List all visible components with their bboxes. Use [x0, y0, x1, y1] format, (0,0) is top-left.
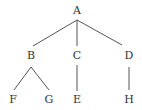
edge-a-d	[77, 20, 122, 45]
tree-nodes: A B C D F G E H	[9, 4, 134, 106]
edge-a-b	[33, 20, 77, 46]
node-h: H	[124, 93, 134, 106]
node-a: A	[72, 4, 82, 17]
node-b: B	[27, 49, 35, 62]
node-f: F	[9, 93, 17, 106]
node-d: D	[125, 49, 134, 62]
node-c: C	[73, 49, 81, 62]
tree-diagram: A B C D F G E H	[0, 0, 142, 110]
edge-b-f	[14, 67, 31, 90]
node-e: E	[73, 93, 81, 106]
node-g: G	[45, 93, 54, 106]
edge-b-g	[31, 67, 49, 90]
